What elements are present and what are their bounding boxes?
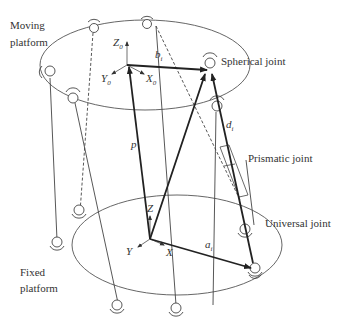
stewart-platform-diagram: Moving platform Spherical joint Prismati… — [0, 0, 345, 325]
prismatic-joint — [220, 145, 248, 197]
fixed-platform — [72, 195, 282, 295]
fixed-platform-label-1: Fixed — [20, 266, 46, 278]
universal-joint-label: Universal joint — [265, 217, 331, 229]
y-label: Y — [126, 245, 134, 257]
moving-platform-label-1: Moving — [10, 19, 45, 31]
vector-b — [127, 65, 207, 70]
vector-to-spherical — [150, 74, 205, 239]
p-label: p — [130, 138, 137, 150]
spherical-joint-label: Spherical joint — [221, 55, 285, 67]
y0-label: Y0 — [101, 72, 111, 87]
x0-label: X0 — [145, 72, 157, 87]
z-label: Z — [147, 202, 154, 214]
z0-label: Z0 — [113, 36, 123, 51]
legs — [50, 26, 254, 305]
x-label: X — [165, 246, 174, 258]
fixed-platform-label-2: platform — [20, 282, 58, 294]
a-i-label: ai — [205, 238, 213, 253]
prismatic-joint-label: Prismatic joint — [248, 152, 312, 164]
d-i-label: di — [226, 118, 234, 133]
moving-platform-label-2: platform — [10, 36, 48, 48]
